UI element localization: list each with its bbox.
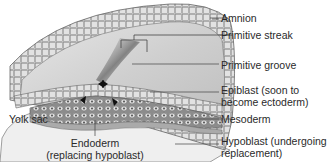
label-endoderm-2: (replacing hypoblast)	[40, 149, 150, 161]
label-hypoblast-1: Hypoblast (undergoing	[221, 135, 327, 147]
label-epiblast-1: Epiblast (soon to	[221, 84, 299, 96]
label-epiblast-2: become ectoderm)	[221, 96, 309, 108]
label-primitive-groove: Primitive groove	[221, 59, 296, 71]
label-mesoderm: Mesoderm	[221, 113, 271, 125]
label-endoderm-1: Endoderm	[45, 137, 145, 149]
label-primitive-streak: Primitive streak	[221, 29, 293, 41]
label-amnion: Amnion	[221, 12, 257, 24]
label-hypoblast-2: replacement)	[221, 147, 282, 159]
label-yolk-sac: Yolk sac	[9, 113, 48, 125]
